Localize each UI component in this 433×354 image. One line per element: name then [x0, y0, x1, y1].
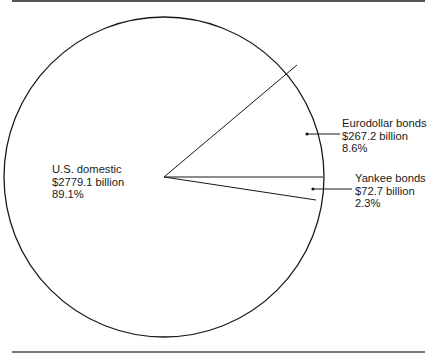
slice-name: Yankee bonds — [355, 172, 426, 185]
slice-amount: $72.7 billion — [355, 185, 426, 198]
label-yankee: Yankee bonds $72.7 billion 2.3% — [355, 172, 426, 210]
label-eurodollar: Eurodollar bonds $267.2 billion 8.6% — [342, 117, 427, 155]
label-us-domestic: U.S. domestic $2779.1 billion 89.1% — [52, 163, 124, 201]
slice-percent: 2.3% — [355, 197, 426, 210]
slice-name: U.S. domestic — [52, 163, 124, 176]
bottom-rule — [12, 351, 425, 353]
slice-amount: $2779.1 billion — [52, 176, 124, 189]
slice-amount: $267.2 billion — [342, 130, 427, 143]
slice-percent: 89.1% — [52, 188, 124, 201]
slice-percent: 8.6% — [342, 142, 427, 155]
slice-name: Eurodollar bonds — [342, 117, 427, 130]
